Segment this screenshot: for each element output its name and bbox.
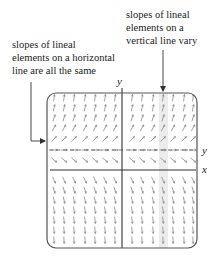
lineal-element-head (65, 211, 66, 213)
lineal-element-head (154, 201, 155, 203)
lineal-element-head (133, 211, 134, 213)
lineal-element (182, 137, 187, 142)
lineal-element-head (75, 201, 76, 203)
lineal-element-head (185, 201, 186, 203)
x-axis-label: x (202, 164, 207, 175)
lineal-element-head (55, 201, 56, 203)
lineal-element-head (143, 201, 144, 203)
equilibrium-line-label: y (202, 145, 207, 156)
lineal-element (151, 137, 156, 142)
lineal-element-head (86, 211, 87, 213)
slope-field-arrows (51, 95, 197, 244)
lineal-element-head (55, 211, 56, 213)
lineal-element-head (65, 201, 66, 203)
lineal-element (71, 158, 76, 162)
lineal-element (181, 158, 186, 162)
lineal-element (139, 158, 144, 162)
lineal-element-head (106, 211, 107, 213)
lineal-element-head (194, 211, 195, 213)
lineal-element (150, 158, 155, 162)
lineal-element (113, 137, 118, 142)
lineal-element (92, 158, 97, 162)
lineal-element-head (96, 201, 97, 203)
lineal-element-head (154, 211, 155, 213)
lineal-element (191, 137, 196, 142)
y-axis-label: y (117, 76, 122, 87)
lineal-element (62, 137, 67, 142)
lineal-element (102, 158, 107, 162)
lineal-element-head (106, 201, 107, 203)
lineal-element (140, 137, 145, 142)
lineal-element-head (174, 201, 175, 203)
lineal-element (51, 158, 56, 162)
lineal-element-head (143, 211, 144, 213)
lineal-element (52, 137, 57, 142)
lineal-element-head (133, 201, 134, 203)
slope-field-diagram (0, 0, 222, 260)
lineal-element (83, 137, 88, 142)
lineal-element (72, 137, 77, 142)
lineal-element (171, 137, 176, 142)
lineal-element-head (116, 201, 117, 203)
lineal-element (93, 137, 98, 142)
lineal-element (112, 158, 117, 162)
lineal-element (82, 158, 87, 162)
lineal-element-head (185, 211, 186, 213)
lineal-element (190, 158, 195, 162)
lineal-element-head (86, 201, 87, 203)
lineal-element (129, 158, 134, 162)
lineal-element-head (96, 211, 97, 213)
lineal-element-head (174, 211, 175, 213)
callout-horizontal-arrow (31, 82, 45, 141)
lineal-element-head (116, 211, 117, 213)
lineal-element-head (194, 201, 195, 203)
lineal-element (130, 137, 135, 142)
lineal-element (170, 158, 175, 162)
lineal-element (103, 137, 108, 142)
lineal-element (61, 158, 66, 162)
lineal-element-head (75, 211, 76, 213)
